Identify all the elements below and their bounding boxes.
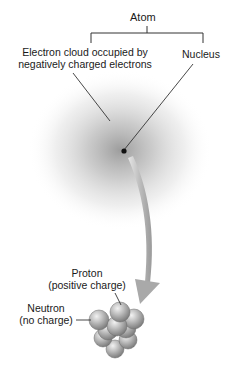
proton-label: Proton (positive charge) <box>42 267 132 291</box>
electron-cloud-label-line2: negatively charged electrons <box>10 58 160 70</box>
nucleus-label: Nucleus <box>182 48 220 60</box>
neutron-label: Neutron (no charge) <box>16 302 76 326</box>
electron-cloud-label: Electron cloud occupied by negatively ch… <box>10 46 160 70</box>
atom-bracket <box>91 26 203 43</box>
electron-cloud-label-line1: Electron cloud occupied by <box>10 46 160 58</box>
nucleus-cluster <box>89 302 144 358</box>
electron-cloud <box>28 70 212 230</box>
proton-label-line1: Proton <box>42 267 132 279</box>
atom-title: Atom <box>130 11 156 23</box>
neutron-label-line1: Neutron <box>16 302 76 314</box>
nucleus-dot <box>121 148 126 153</box>
neutron-label-line2: (no charge) <box>16 314 76 326</box>
proton-label-line2: (positive charge) <box>42 279 132 291</box>
